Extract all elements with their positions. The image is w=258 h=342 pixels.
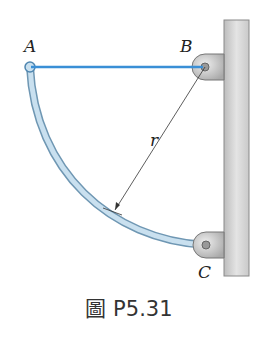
bracket-c [193, 232, 224, 258]
curved-rod [30, 67, 206, 245]
diagram-canvas [0, 0, 258, 342]
wall [224, 20, 249, 276]
label-a: A [24, 36, 36, 56]
label-r: r [150, 130, 158, 150]
label-b: B [180, 36, 193, 56]
label-c: C [198, 262, 211, 282]
figure-caption: 圖 P5.31 [0, 292, 258, 322]
